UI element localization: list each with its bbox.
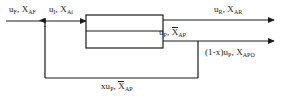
- product-comp-symbol: X: [236, 47, 243, 57]
- label-bottoms-stream: uP, XAP: [159, 28, 186, 37]
- feed-flow-subscript: F: [14, 9, 17, 15]
- purge-flow-subscript: P: [164, 32, 167, 38]
- recycle-comp-subscript: AR: [234, 9, 242, 15]
- label-feed-stream: uF, XAF: [9, 5, 36, 14]
- product-flow-subscript: P: [228, 52, 231, 58]
- label-overhead-stream: uR, XAR: [214, 5, 242, 14]
- inlet-comp-subscript: Ai: [67, 9, 73, 15]
- label-inlet-stream: uI, XAi: [49, 5, 73, 14]
- product-prefix: (1-x): [205, 47, 224, 57]
- product-comp-subscript: APO: [243, 52, 255, 58]
- feedback-comp-subscript: AP: [125, 86, 133, 92]
- recycle-flow-symbol: u: [214, 4, 219, 14]
- feed-flow-symbol: u: [9, 4, 14, 14]
- feedback-flow-subscript: P: [110, 86, 113, 92]
- purge-comp-subscript: AP: [178, 32, 186, 38]
- inlet-comp-symbol: X: [60, 4, 67, 14]
- recycle-flow-subscript: R: [219, 9, 223, 15]
- label-feedback-stream: xuP, XAP: [101, 82, 133, 91]
- feed-comp-subscript: AF: [28, 9, 36, 15]
- feedback-comp-symbol-overbar: X: [118, 82, 125, 91]
- label-product-stream: (1-x)uP, XAPO: [205, 48, 255, 57]
- process-flow-diagram: uF, XAF uI, XAi uR, XAR uP, XAP (1-x)uP,…: [0, 0, 281, 101]
- purge-flow-symbol: u: [159, 27, 164, 37]
- inlet-flow-symbol: u: [49, 4, 54, 14]
- recycle-comp-symbol: X: [227, 4, 234, 14]
- inlet-flow-subscript: I: [54, 9, 56, 15]
